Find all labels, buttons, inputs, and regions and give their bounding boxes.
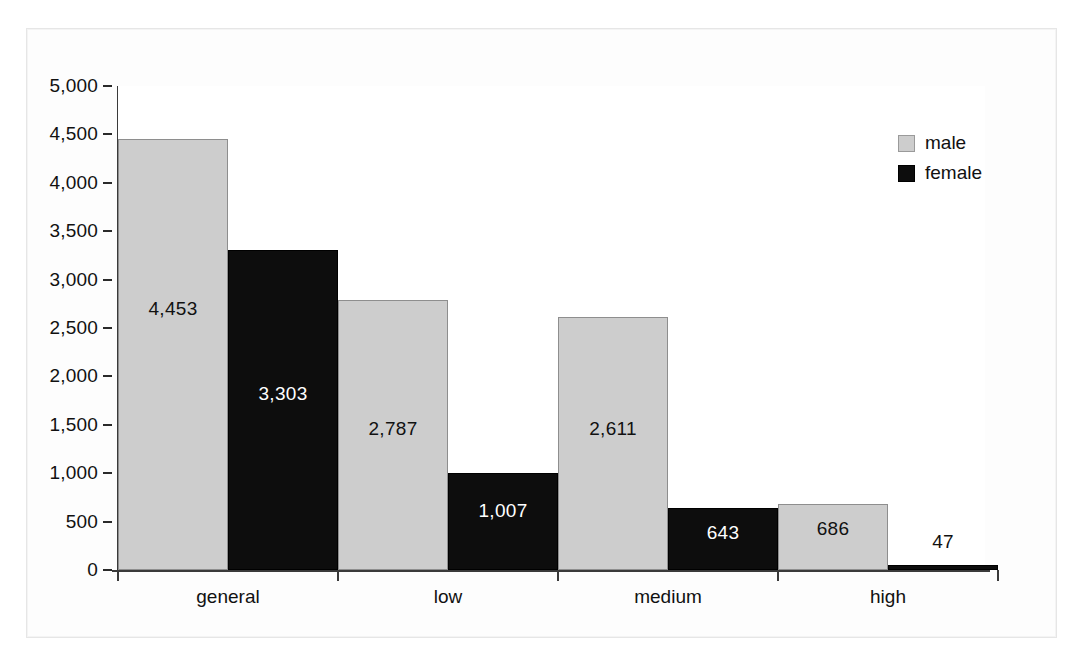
- x-axis-line: [112, 570, 990, 572]
- bar-value-label: 4,453: [148, 298, 197, 320]
- y-axis-tick-label: 3,500: [49, 220, 98, 242]
- y-axis-tick-mark: [103, 230, 112, 232]
- y-axis-tick-mark: [103, 182, 112, 184]
- legend-item-male[interactable]: male: [898, 128, 1018, 158]
- y-axis-tick-label: 500: [66, 511, 98, 533]
- bar-value-label: 3,303: [258, 383, 307, 405]
- y-axis-tick-mark: [103, 424, 112, 426]
- y-axis-tick-label: 1,500: [49, 414, 98, 436]
- y-axis-tick-mark: [103, 472, 112, 474]
- legend-swatch-female-icon: [898, 165, 915, 182]
- y-axis-tick-label: 3,000: [49, 269, 98, 291]
- y-axis-tick-label: 0: [87, 559, 98, 581]
- y-axis-tick-label: 5,000: [49, 75, 98, 97]
- plot-area: 4,4533,3032,7871,0072,61164368647: [118, 86, 985, 570]
- y-axis-tick-label: 1,000: [49, 462, 98, 484]
- bar-general-male: [118, 139, 228, 570]
- bar-value-label: 2,611: [589, 418, 637, 440]
- bar-value-label: 643: [707, 522, 740, 544]
- x-axis-tick-mark: [117, 570, 119, 581]
- bar-value-label: 47: [932, 531, 954, 553]
- legend-label: male: [925, 132, 966, 154]
- chart-figure: 5,0004,5004,0003,5003,0002,5002,0001,500…: [0, 0, 1081, 666]
- y-axis-tick-mark: [103, 327, 112, 329]
- legend-label: female: [925, 162, 982, 184]
- x-axis-category-label-general: general: [196, 586, 259, 608]
- y-axis-tick-label: 2,000: [49, 365, 98, 387]
- y-axis-tick-label: 4,000: [49, 172, 98, 194]
- y-axis-tick-mark: [103, 521, 112, 523]
- bar-general-female: [228, 250, 338, 570]
- y-axis-tick-mark: [103, 375, 112, 377]
- x-axis-category-label-low: low: [434, 586, 463, 608]
- y-axis-tick-label: 2,500: [49, 317, 98, 339]
- bar-value-label: 1,007: [478, 500, 527, 522]
- x-axis-tick-mark: [997, 570, 999, 581]
- y-axis-tick-mark: [103, 85, 112, 87]
- x-axis-category-label-high: high: [870, 586, 906, 608]
- legend-item-female[interactable]: female: [898, 158, 1018, 188]
- legend-swatch-male-icon: [898, 135, 915, 152]
- y-axis: 5,0004,5004,0003,5003,0002,5002,0001,500…: [26, 86, 112, 570]
- x-axis-tick-mark: [777, 570, 779, 581]
- bar-medium-male: [558, 317, 668, 570]
- y-axis-tick-mark: [103, 279, 112, 281]
- chart-legend: malefemale: [898, 128, 1018, 188]
- bar-value-label: 686: [817, 518, 850, 540]
- y-axis-tick-mark: [103, 133, 112, 135]
- y-axis-tick-label: 4,500: [49, 123, 98, 145]
- bar-value-label: 2,787: [368, 418, 417, 440]
- x-axis-tick-mark: [337, 570, 339, 581]
- y-axis-tick-mark: [103, 569, 112, 571]
- x-axis-category-label-medium: medium: [634, 586, 702, 608]
- x-axis-tick-mark: [557, 570, 559, 581]
